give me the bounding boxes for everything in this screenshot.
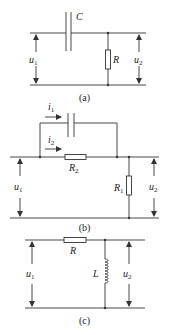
u2-label: u2 bbox=[149, 181, 158, 194]
i2-label: i2 bbox=[48, 134, 55, 147]
circuit-a: C R u1 u2 (a) bbox=[29, 11, 146, 104]
circuit-diagrams: C R u1 u2 (a) i1 i2 R2 bbox=[0, 0, 169, 335]
resistor-label: R bbox=[112, 54, 119, 65]
caption-c: (c) bbox=[79, 315, 90, 327]
caption-a: (a) bbox=[79, 92, 90, 104]
capacitor-label: C bbox=[76, 11, 83, 22]
circuit-b: i1 i2 R2 R1 u1 u2 (b) bbox=[10, 101, 159, 234]
junction bbox=[39, 156, 41, 158]
i1-label: i1 bbox=[48, 101, 55, 114]
r1-label: R1 bbox=[113, 182, 124, 195]
resistor-r bbox=[64, 238, 86, 243]
resistor-r bbox=[106, 50, 111, 69]
resistor-label: R bbox=[69, 245, 76, 256]
junction bbox=[107, 84, 109, 86]
resistor-r2 bbox=[65, 155, 86, 160]
u1-label: u1 bbox=[26, 268, 35, 281]
u1-label: u1 bbox=[29, 54, 38, 67]
u1-label: u1 bbox=[14, 181, 23, 194]
inductor-label: L bbox=[92, 268, 99, 279]
u2-label: u2 bbox=[134, 54, 143, 67]
caption-b: (b) bbox=[79, 222, 91, 234]
r2-label: R2 bbox=[68, 162, 79, 175]
circuit-c: R L u1 u2 (c) bbox=[25, 238, 145, 328]
resistor-r1 bbox=[127, 176, 132, 195]
junction bbox=[104, 307, 106, 309]
junction bbox=[128, 217, 130, 219]
inductor-l bbox=[105, 259, 108, 283]
u2-label: u2 bbox=[123, 268, 132, 281]
junction bbox=[116, 156, 118, 158]
